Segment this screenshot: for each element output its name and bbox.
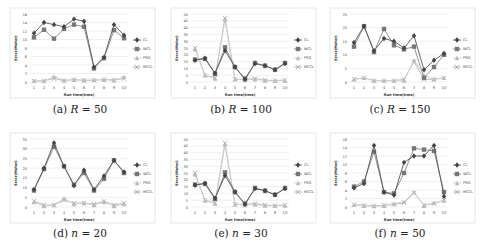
line-chart-a: 024681012141612345678910Run time(time)Er… xyxy=(0,0,160,100)
svg-text:40: 40 xyxy=(183,151,188,155)
svg-text:5: 5 xyxy=(345,67,347,71)
caption-variable: R xyxy=(387,103,395,115)
svg-text:CL: CL xyxy=(304,163,309,167)
svg-text:30: 30 xyxy=(183,165,188,169)
svg-text:10: 10 xyxy=(283,85,288,90)
caption-label: (d) xyxy=(53,227,68,239)
caption-value: = 50 xyxy=(82,103,108,115)
svg-text:5: 5 xyxy=(25,196,27,200)
y-axis-label: Error(Meter) xyxy=(175,35,179,61)
caption-value: = 20 xyxy=(81,227,107,239)
caption-value: = 100 xyxy=(240,103,272,115)
svg-text:10: 10 xyxy=(442,210,447,215)
svg-text:CL: CL xyxy=(463,163,468,167)
svg-text:15: 15 xyxy=(22,176,27,180)
caption-variable: n xyxy=(232,227,239,239)
svg-text:MCCL: MCCL xyxy=(304,190,314,194)
svg-text:15: 15 xyxy=(183,185,188,189)
svg-text:20: 20 xyxy=(342,26,347,30)
line-chart-f: 024681012141612345678910Run time(time)Er… xyxy=(320,125,480,225)
svg-text:CL: CL xyxy=(143,163,148,167)
y-axis-label: Error(Meter) xyxy=(175,160,179,186)
svg-text:45: 45 xyxy=(183,19,188,23)
caption-d: (d) n = 20 xyxy=(0,227,160,239)
svg-text:MCCL: MCCL xyxy=(143,190,153,194)
svg-text:15: 15 xyxy=(342,40,347,44)
caption-label: (f) xyxy=(374,227,386,239)
x-axis-label: Run time(time) xyxy=(64,93,95,97)
svg-text:14: 14 xyxy=(342,146,347,150)
chart-panel-f: 024681012141612345678910Run time(time)Er… xyxy=(320,125,480,247)
svg-text:15: 15 xyxy=(183,60,188,64)
caption-value: = 50 xyxy=(400,227,426,239)
line-chart-e: 0510152025303540455012345678910Run time(… xyxy=(161,125,321,225)
svg-text:PSO: PSO xyxy=(304,181,311,185)
svg-text:20: 20 xyxy=(183,53,188,57)
caption-label: (c) xyxy=(370,103,384,115)
svg-text:PSO: PSO xyxy=(143,56,150,60)
svg-text:5: 5 xyxy=(186,74,188,78)
svg-text:25: 25 xyxy=(183,172,188,176)
svg-text:40: 40 xyxy=(183,26,188,30)
y-axis-label: Error(Meter) xyxy=(334,35,338,61)
x-axis-label: Run time(time) xyxy=(384,218,415,222)
svg-text:35: 35 xyxy=(183,33,188,37)
svg-text:20: 20 xyxy=(22,167,27,171)
svg-text:PSO: PSO xyxy=(463,56,470,60)
caption-variable: n xyxy=(71,227,78,239)
caption-variable: R xyxy=(71,103,79,115)
line-chart-b: 0510152025303540455012345678910Run time(… xyxy=(161,0,321,100)
svg-text:PSO: PSO xyxy=(143,181,150,185)
svg-text:10: 10 xyxy=(122,210,127,215)
caption-a: (a) R = 50 xyxy=(0,103,160,115)
x-axis-label: Run time(time) xyxy=(384,93,415,97)
svg-text:25: 25 xyxy=(22,157,27,161)
svg-text:25: 25 xyxy=(342,13,347,17)
caption-variable: R xyxy=(228,103,236,115)
svg-text:10: 10 xyxy=(283,210,288,215)
svg-text:50: 50 xyxy=(183,138,188,142)
caption-label: (b) xyxy=(210,103,225,115)
svg-text:WCL: WCL xyxy=(304,47,312,51)
caption-variable: n xyxy=(390,227,397,239)
line-chart-d: 0510152025303512345678910Run time(time)E… xyxy=(0,125,160,225)
svg-text:50: 50 xyxy=(183,13,188,17)
svg-text:PSO: PSO xyxy=(304,56,311,60)
svg-text:MCCL: MCCL xyxy=(463,190,473,194)
chart-panel-c: 051015202512345678910Run time(time)Error… xyxy=(320,0,480,122)
svg-text:10: 10 xyxy=(183,192,188,196)
x-axis-label: Run time(time) xyxy=(225,218,256,222)
svg-text:MCCL: MCCL xyxy=(143,65,153,69)
y-axis-label: Error(Meter) xyxy=(14,160,18,186)
svg-text:10: 10 xyxy=(342,163,347,167)
svg-text:MCCL: MCCL xyxy=(304,65,314,69)
svg-text:30: 30 xyxy=(22,147,27,151)
line-chart-c: 051015202512345678910Run time(time)Error… xyxy=(320,0,480,100)
svg-text:2: 2 xyxy=(345,197,347,201)
svg-text:10: 10 xyxy=(122,85,127,90)
y-axis-label: Error(Meter) xyxy=(334,160,338,186)
chart-panel-e: 0510152025303540455012345678910Run time(… xyxy=(161,125,321,247)
svg-text:WCL: WCL xyxy=(143,172,151,176)
svg-text:2: 2 xyxy=(25,72,27,76)
caption-c: (c) R = 150 xyxy=(320,103,480,115)
svg-text:30: 30 xyxy=(183,40,188,44)
svg-text:12: 12 xyxy=(342,155,347,159)
y-axis-label: Error(Meter) xyxy=(14,35,18,61)
svg-text:WCL: WCL xyxy=(463,172,471,176)
chart-panel-b: 0510152025303540455012345678910Run time(… xyxy=(161,0,321,122)
svg-text:10: 10 xyxy=(183,67,188,71)
svg-text:WCL: WCL xyxy=(463,47,471,51)
x-axis-label: Run time(time) xyxy=(225,93,256,97)
svg-text:CL: CL xyxy=(463,38,468,42)
svg-text:CL: CL xyxy=(304,38,309,42)
svg-text:35: 35 xyxy=(183,158,188,162)
svg-text:10: 10 xyxy=(342,53,347,57)
svg-text:45: 45 xyxy=(183,144,188,148)
caption-f: (f) n = 50 xyxy=(320,227,480,239)
caption-value: = 30 xyxy=(242,227,268,239)
svg-text:WCL: WCL xyxy=(304,172,312,176)
caption-e: (e) n = 30 xyxy=(161,227,321,239)
svg-text:10: 10 xyxy=(22,38,27,42)
svg-text:35: 35 xyxy=(22,138,27,142)
